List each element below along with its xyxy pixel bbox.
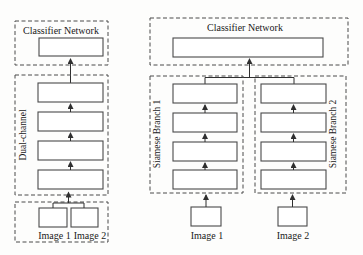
siamese-branch2-label: Siamese Branch 2 [328, 99, 338, 168]
diagram-svg: Classifier Network Dual-channel Image 1 … [0, 0, 363, 255]
branch2-layer-rect [261, 84, 326, 103]
branch2-layer-rect [261, 170, 326, 189]
right-input1-rect [191, 207, 221, 226]
left-classifier-layer-rect [39, 38, 103, 56]
dual-channel-layer-rect [38, 170, 103, 189]
right-input2-label: Image 2 [277, 230, 310, 241]
siamese-diagram: Classifier Network Siamese Branch 1 Siam… [150, 18, 348, 241]
branch1-layer-rect [173, 84, 237, 103]
branch1-layer-rect [173, 113, 237, 132]
right-input1-label: Image 1 [191, 230, 224, 241]
right-classifier-layer-rect [173, 38, 323, 57]
right-classifier-title: Classifier Network [207, 22, 283, 33]
architecture-diagram: Classifier Network Dual-channel Image 1 … [0, 0, 363, 255]
dual-channel-layer-rect [38, 141, 103, 160]
left-merge-connector [53, 203, 84, 208]
branch1-layer-rect [173, 170, 237, 189]
branches-merge-connector [205, 78, 294, 85]
left-input2-rect [71, 208, 98, 227]
dual-channel-label: Dual-channel [18, 109, 28, 161]
siamese-branch1-label: Siamese Branch 1 [152, 99, 162, 168]
left-input1-rect [39, 208, 67, 227]
dual-channel-layer-rect [38, 83, 103, 102]
left-classifier-title: Classifier Network [23, 25, 99, 36]
left-input2-label: Image 2 [74, 230, 107, 241]
dual-channel-diagram: Classifier Network Dual-channel Image 1 … [15, 21, 108, 242]
branch2-layer-rect [261, 113, 326, 132]
left-input1-label: Image 1 [38, 230, 71, 241]
branch2-layer-rect [261, 142, 326, 161]
dual-channel-layer-rect [38, 112, 103, 131]
branch1-layer-rect [173, 142, 237, 161]
right-input2-rect [278, 207, 307, 226]
